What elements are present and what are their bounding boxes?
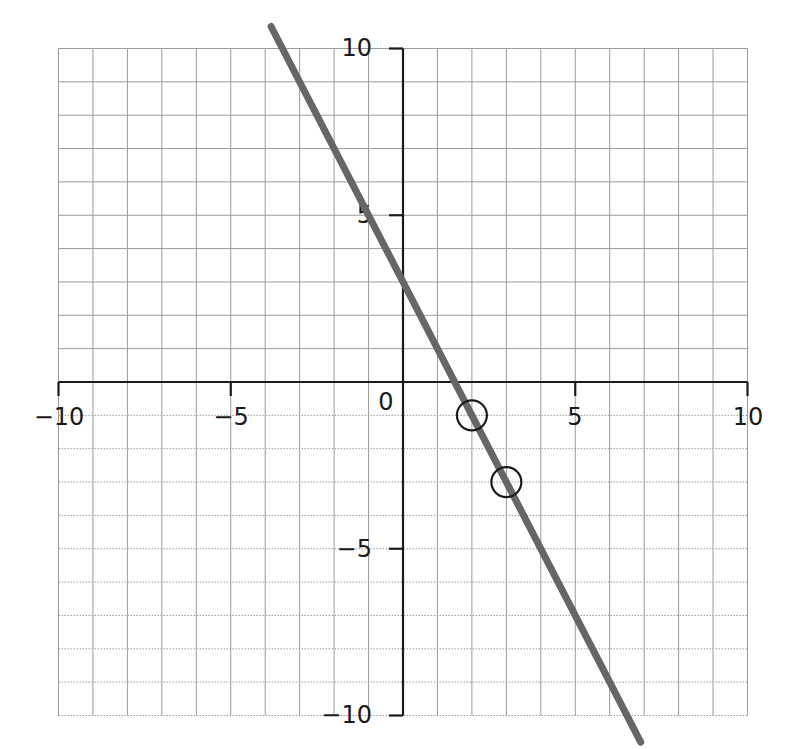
y-tick-label-neg10: −10 [321, 701, 372, 729]
y-tick-label-10: 10 [341, 34, 372, 62]
y-tick-label-neg5: −5 [337, 535, 372, 563]
line-series [271, 26, 641, 742]
x-tick-label-5: 5 [567, 403, 582, 431]
origin-label: 0 [378, 388, 393, 416]
data-line [271, 26, 641, 742]
x-tick-label-10: 10 [733, 403, 764, 431]
x-tick-label-neg5: −5 [213, 403, 248, 431]
x-tick-label-neg10: −10 [34, 403, 85, 431]
coordinate-plane-chart: −10 −5 5 10 10 5 −5 −10 0 [0, 0, 794, 749]
